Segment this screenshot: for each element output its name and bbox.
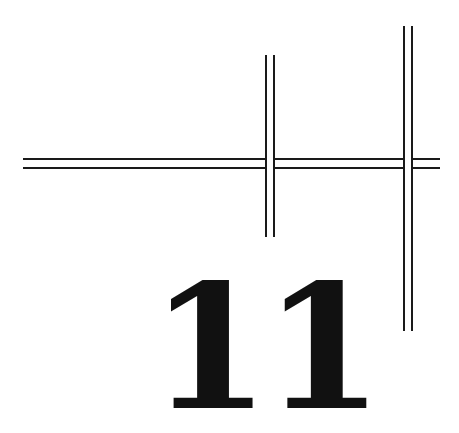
vertical-rule-right xyxy=(411,26,413,331)
vertical-rule-left xyxy=(265,55,267,237)
chapter-number: 11 xyxy=(150,262,345,433)
vertical-rule-left xyxy=(403,26,405,331)
vertical-rule-right xyxy=(273,55,275,237)
horizontal-rule-top xyxy=(23,158,440,160)
horizontal-rule-bottom xyxy=(23,167,440,169)
